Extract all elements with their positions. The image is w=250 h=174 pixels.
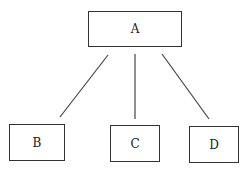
node-a: A [88, 11, 182, 47]
node-d: D [189, 126, 239, 163]
node-b: B [9, 124, 65, 161]
node-d-label: D [209, 138, 219, 152]
edge-a-b [60, 55, 108, 117]
node-a-label: A [131, 22, 140, 36]
node-c-label: C [130, 137, 139, 151]
edge-a-d [162, 54, 209, 119]
node-b-label: B [33, 136, 42, 150]
node-c: C [110, 125, 160, 162]
